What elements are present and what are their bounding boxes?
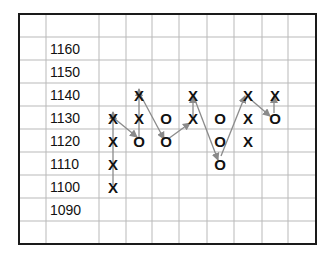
price-label-1160: 1160 [50, 41, 80, 57]
price-label-1150: 1150 [50, 64, 80, 80]
o-mark: O [214, 133, 226, 150]
x-mark: X [134, 87, 144, 104]
x-mark: X [108, 110, 118, 127]
price-label-1140: 1140 [50, 87, 80, 103]
o-mark: O [269, 110, 281, 127]
price-label-1130: 1130 [50, 110, 80, 126]
price-label-1120: 1120 [50, 133, 80, 149]
o-mark: O [160, 133, 172, 150]
x-mark: X [243, 110, 253, 127]
o-mark: O [214, 156, 226, 173]
o-mark: O [160, 110, 172, 127]
price-label-1100: 1100 [50, 179, 80, 195]
x-mark: X [108, 156, 118, 173]
x-mark: X [188, 87, 198, 104]
x-mark: X [108, 133, 118, 150]
x-mark: X [134, 110, 144, 127]
price-label-1090: 1090 [50, 202, 81, 218]
price-label-1110: 1110 [50, 156, 79, 172]
x-mark: X [188, 110, 198, 127]
point-and-figure-chart: 1160 1150 1140 1130 1120 1110 1100 1090 … [0, 0, 329, 257]
x-mark: X [243, 87, 253, 104]
o-mark: O [214, 110, 226, 127]
x-mark: X [270, 87, 280, 104]
x-mark: X [243, 133, 253, 150]
x-mark: X [108, 179, 118, 196]
o-mark: O [133, 133, 145, 150]
